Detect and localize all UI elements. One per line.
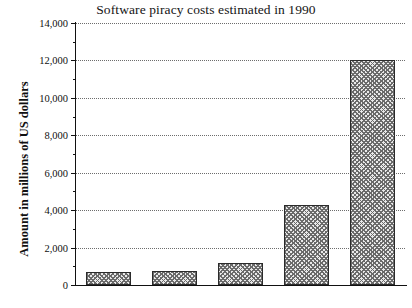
- y-tick-label: 2,000: [44, 242, 68, 253]
- y-tick-label: 12,000: [39, 55, 68, 66]
- chart-title: Software piracy costs estimated in 1990: [0, 2, 412, 18]
- y-tick-major: [71, 173, 76, 174]
- bar: [86, 272, 131, 285]
- y-tick-major: [71, 248, 76, 249]
- y-tick-minor: [73, 229, 77, 230]
- bar: [152, 271, 197, 285]
- y-tick-minor: [73, 266, 77, 267]
- y-tick-label: 6,000: [44, 167, 68, 178]
- y-tick-label: 10,000: [39, 92, 68, 103]
- y-tick-major: [71, 210, 76, 211]
- y-tick-minor: [73, 117, 77, 118]
- y-tick-minor: [73, 79, 77, 80]
- bar: [284, 205, 329, 285]
- plot-area: 02,0004,0006,0008,00010,00012,00014,000 …: [76, 23, 405, 285]
- y-tick-minor: [73, 42, 77, 43]
- bar: [350, 60, 395, 285]
- y-tick-major: [71, 23, 76, 24]
- y-tick-minor: [73, 154, 77, 155]
- bar: [218, 263, 263, 285]
- y-axis-title-wrapper: Amount in millions of US dollars: [14, 44, 32, 294]
- y-tick-label: 8,000: [44, 130, 68, 141]
- y-tick-major: [71, 285, 76, 286]
- y-tick-major: [71, 135, 76, 136]
- y-tick-label: 0: [63, 280, 68, 291]
- y-tick-minor: [73, 191, 77, 192]
- gridline: [76, 23, 405, 24]
- y-tick-major: [71, 98, 76, 99]
- y-tick-major: [71, 60, 76, 61]
- y-tick-label: 4,000: [44, 205, 68, 216]
- bar-chart: Software piracy costs estimated in 1990 …: [0, 0, 412, 308]
- y-axis-title: Amount in millions of US dollars: [17, 81, 31, 256]
- y-tick-label: 14,000: [39, 18, 68, 29]
